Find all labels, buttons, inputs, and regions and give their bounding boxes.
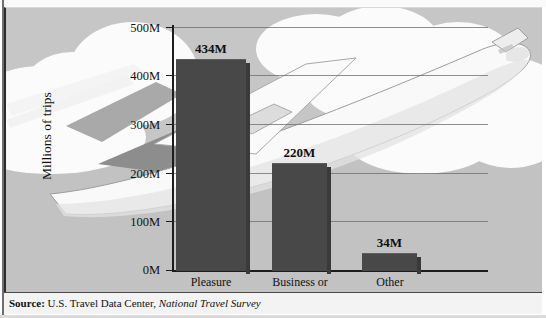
y-axis-title: Millions of trips	[39, 61, 55, 211]
y-axis-tick-labels: 500M 400M 300M 200M 100M 0M	[98, 8, 160, 292]
y-axis-line	[172, 25, 174, 272]
source-line: Source: U.S. Travel Data Center, Nationa…	[9, 297, 261, 309]
y-tick-label: 200M	[100, 168, 160, 181]
cropped-title-strip	[0, 0, 546, 7]
chart-plate: 500M 400M 300M 200M 100M 0M Millions of …	[4, 7, 542, 292]
x-axis-label-line: Other	[351, 276, 429, 290]
x-axis-label-other: Other	[351, 276, 429, 290]
x-axis-label-pleasure: Pleasure	[166, 276, 256, 290]
bar-value-label-pleasure: 434M	[176, 41, 246, 57]
bar-other	[362, 253, 417, 271]
y-axis-tick	[166, 221, 173, 222]
y-axis-tick	[166, 173, 173, 174]
bar-value-label-business: 220M	[272, 145, 327, 161]
y-axis-tick	[166, 27, 173, 28]
y-tick-label: 300M	[100, 119, 160, 132]
source-label: Source:	[9, 297, 45, 309]
bar-pleasure	[176, 59, 246, 271]
y-axis-tick	[166, 124, 173, 125]
bar-value-label-other: 34M	[362, 235, 417, 251]
x-axis-label-line: Pleasure	[166, 276, 256, 290]
gridline	[174, 27, 488, 28]
y-tick-label: 0M	[100, 264, 160, 277]
x-axis-label-line: Business or	[254, 276, 346, 290]
y-axis-tick	[166, 270, 173, 271]
y-tick-label: 500M	[100, 22, 160, 35]
left-edge-rule	[2, 0, 4, 318]
source-publisher: U.S. Travel Data Center,	[48, 297, 156, 309]
y-axis-tick	[166, 75, 173, 76]
chart-figure: 500M 400M 300M 200M 100M 0M Millions of …	[0, 0, 546, 318]
bar-business-or-convention	[272, 163, 327, 271]
y-tick-label: 400M	[100, 70, 160, 83]
source-publication: National Travel Survey	[159, 297, 261, 309]
y-tick-label: 100M	[100, 216, 160, 229]
source-footer: Source: U.S. Travel Data Center, Nationa…	[4, 292, 542, 314]
x-axis-label-business: Business or convention	[254, 276, 346, 292]
